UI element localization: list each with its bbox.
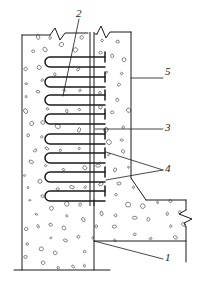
hairpin-loop bbox=[45, 95, 105, 105]
hairpin-rebar bbox=[45, 167, 105, 182]
aggregate-speck bbox=[82, 165, 88, 170]
leader-4-lower bbox=[106, 170, 163, 180]
aggregate-speck bbox=[58, 42, 64, 48]
aggregate-speck bbox=[26, 243, 29, 246]
aggregate-speck bbox=[44, 164, 47, 167]
aggregate-speck bbox=[76, 235, 80, 239]
aggregate-speck bbox=[46, 107, 49, 110]
drawing-sheet: 5 3 4 1 2 bbox=[0, 0, 204, 284]
hairpin-loop bbox=[45, 57, 105, 67]
aggregate-speck bbox=[24, 227, 28, 231]
aggregate-speck bbox=[169, 225, 172, 228]
break-top-right-icon bbox=[97, 26, 131, 38]
aggregate-speck bbox=[117, 83, 121, 87]
aggregate-speck bbox=[133, 233, 137, 236]
aggregate-speck bbox=[117, 182, 121, 186]
aggregate-speck bbox=[38, 179, 42, 183]
aggregate-speck bbox=[61, 225, 66, 230]
callout-label-2: 2 bbox=[76, 8, 82, 19]
aggregate-speck bbox=[99, 51, 103, 54]
aggregate-speck bbox=[24, 255, 28, 259]
hairpin-loop bbox=[45, 153, 105, 163]
aggregate-speck bbox=[78, 89, 81, 92]
hairpin-rebar bbox=[45, 109, 105, 124]
hairpin-rebar bbox=[45, 90, 105, 105]
hairpin-loop bbox=[45, 191, 105, 201]
aggregate-speck bbox=[120, 139, 124, 142]
hairpin-loop bbox=[45, 134, 105, 144]
aggregate-speck bbox=[40, 194, 44, 198]
concrete-outline bbox=[14, 26, 192, 270]
aggregate-speck bbox=[78, 147, 81, 150]
aggregate-speck bbox=[83, 185, 86, 189]
aggregate-speck bbox=[64, 201, 69, 207]
aggregate-speck bbox=[83, 250, 86, 253]
aggregate-speck bbox=[147, 217, 150, 221]
hairpin-rebar bbox=[45, 148, 105, 163]
callout-label-4: 4 bbox=[165, 163, 171, 174]
aggregate-speck bbox=[125, 202, 130, 207]
aggregate-speck bbox=[28, 159, 34, 164]
aggregate-speck bbox=[32, 50, 35, 53]
aggregate-speck bbox=[114, 193, 117, 196]
aggregate-speck bbox=[111, 111, 114, 114]
aggregate-speck bbox=[110, 54, 113, 58]
aggregate-speck bbox=[112, 225, 117, 229]
aggregate-speck bbox=[23, 66, 28, 71]
aggregate-speck bbox=[42, 46, 48, 52]
break-top-left-icon bbox=[50, 28, 88, 40]
aggregate-speck bbox=[140, 203, 146, 210]
callout-label-5: 5 bbox=[165, 66, 171, 77]
aggregate-speck bbox=[127, 166, 129, 169]
aggregate-speck bbox=[100, 39, 103, 42]
aggregate-speck bbox=[120, 72, 123, 75]
aggregate-speck bbox=[62, 168, 66, 171]
detail-drawing-svg bbox=[0, 0, 204, 284]
aggregate-speck bbox=[23, 108, 29, 114]
aggregate-speck bbox=[36, 224, 39, 228]
aggregate-speck bbox=[79, 203, 82, 207]
aggregate-speck bbox=[25, 83, 28, 85]
hairpin-rebar bbox=[45, 52, 105, 67]
hairpin-loop bbox=[45, 114, 105, 124]
aggregate-speck bbox=[48, 223, 53, 227]
hairpin-rebar bbox=[45, 129, 105, 144]
leader-4-upper bbox=[106, 152, 163, 170]
aggregate-speck bbox=[53, 73, 56, 76]
hairpin-rebar bbox=[45, 186, 105, 201]
aggregate-speck bbox=[81, 217, 86, 223]
aggregate-speck bbox=[33, 149, 38, 153]
aggregate-speck bbox=[65, 109, 68, 113]
callout-label-1: 1 bbox=[165, 252, 171, 263]
aggregate-speck bbox=[95, 225, 98, 228]
aggregate-speck bbox=[106, 139, 113, 146]
aggregate-speck bbox=[49, 36, 52, 40]
aggregate-speck bbox=[35, 213, 38, 216]
aggregate-speck bbox=[56, 187, 60, 190]
aggregate-speck bbox=[115, 98, 119, 102]
aggregate-speck bbox=[83, 264, 85, 267]
aggregate-speck bbox=[113, 167, 117, 172]
aggregate-speck bbox=[96, 164, 101, 167]
aggregate-speck bbox=[132, 186, 134, 189]
aggregate-speck bbox=[65, 214, 68, 217]
aggregate-speck bbox=[156, 201, 158, 204]
aggregate-speck bbox=[40, 135, 43, 138]
aggregate-speck bbox=[78, 108, 81, 111]
aggregate-speck bbox=[173, 235, 178, 240]
aggregate-speck bbox=[103, 127, 109, 133]
hairpin-rebar-group bbox=[45, 52, 105, 201]
aggregate-speck bbox=[27, 186, 29, 188]
aggregate-speck bbox=[40, 78, 44, 81]
callout-label-3: 3 bbox=[165, 122, 171, 133]
aggregate-speck bbox=[63, 238, 68, 242]
aggregate-speck bbox=[25, 95, 27, 97]
aggregate-speck bbox=[50, 237, 52, 240]
aggregate-speck bbox=[39, 247, 43, 251]
hairpin-rebar bbox=[45, 72, 105, 87]
aggregate-speck bbox=[29, 200, 31, 202]
aggregate-speck bbox=[69, 185, 75, 189]
aggregate-speck bbox=[36, 90, 40, 94]
aggregate-speck bbox=[116, 40, 120, 44]
aggregate-speck bbox=[59, 149, 62, 152]
